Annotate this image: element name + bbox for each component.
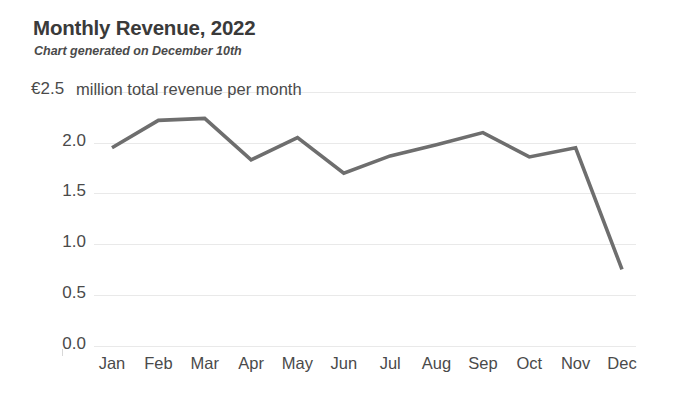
series-line [0, 0, 677, 396]
line-chart: Monthly Revenue, 2022 Chart generated on… [0, 0, 677, 396]
plot-area: 0.00.51.01.52.0€2.5 million total revenu… [0, 0, 677, 396]
revenue-line [112, 118, 622, 269]
